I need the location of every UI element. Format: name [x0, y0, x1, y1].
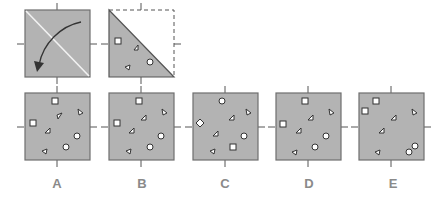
square-icon [230, 144, 236, 150]
fold-step-square [17, 3, 101, 85]
square-icon [136, 98, 142, 104]
square-icon [52, 98, 58, 104]
option-d-square[interactable] [268, 86, 352, 168]
square-icon [115, 38, 121, 44]
circle-icon [412, 143, 418, 149]
circle-icon [63, 144, 69, 150]
option-label-e[interactable]: E [373, 176, 413, 191]
circle-icon [241, 133, 247, 139]
option-a-square[interactable] [17, 86, 101, 168]
circle-icon [147, 59, 153, 65]
option-label-c[interactable]: C [205, 176, 245, 191]
option-label-a[interactable]: A [37, 176, 77, 191]
square-icon [302, 98, 308, 104]
circle-icon [219, 98, 225, 104]
folded-triangle [101, 3, 185, 85]
option-c-square[interactable] [185, 86, 269, 168]
option-labels: A B C D E [0, 176, 446, 200]
paper-square [359, 93, 424, 160]
circle-icon [312, 144, 318, 150]
option-label-b[interactable]: B [122, 176, 162, 191]
square-icon [30, 120, 36, 126]
square-icon [362, 108, 368, 114]
square-icon [280, 121, 286, 127]
circle-icon [406, 149, 412, 155]
option-label-d[interactable]: D [289, 176, 329, 191]
option-b-square[interactable] [101, 86, 185, 168]
circle-icon [147, 144, 153, 150]
option-e-square[interactable] [351, 86, 435, 168]
circle-icon [74, 133, 80, 139]
square-icon [373, 98, 379, 104]
circle-icon [158, 133, 164, 139]
circle-icon [323, 133, 329, 139]
paper-square [193, 93, 258, 160]
square-icon [114, 120, 120, 126]
